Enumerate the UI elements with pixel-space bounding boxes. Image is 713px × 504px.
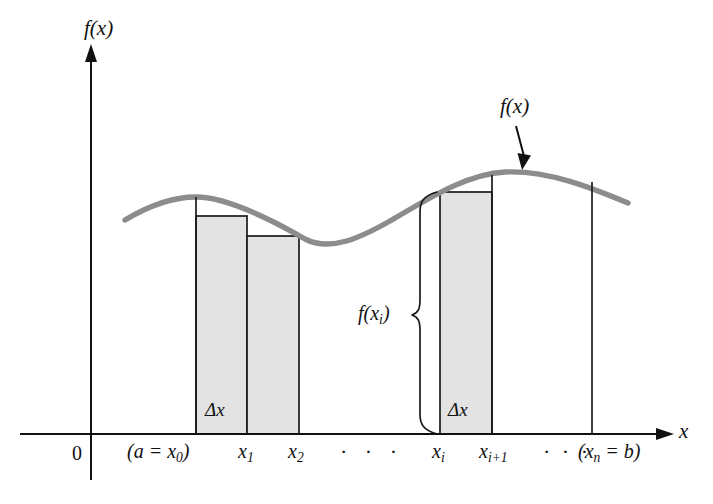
tick-subscript: i+1 xyxy=(488,450,508,465)
riemann-sum-figure: f(x) x 0 f(x) f(xi) Δx Δx (a = x0)x1x2· … xyxy=(0,0,713,504)
x-tick-label-xn-b: (xn = b) xyxy=(578,441,641,464)
tick-text: · · · xyxy=(340,439,403,464)
rectangle-2 xyxy=(247,236,299,434)
x-axis-label: x xyxy=(679,421,688,442)
tick-subscript: 1 xyxy=(247,450,254,465)
tick-text: x xyxy=(288,440,297,462)
x-tick-label-xi: xi xyxy=(432,441,445,464)
origin-label: 0 xyxy=(72,443,82,463)
rectangle-i xyxy=(440,192,492,434)
curve-label-arrow xyxy=(516,126,531,170)
x-tick-label-x2: x2 xyxy=(288,441,304,464)
x-tick-label-x1: x1 xyxy=(238,441,254,464)
delta-x-label-left: Δx xyxy=(205,400,225,419)
tick-subscript: 2 xyxy=(297,450,304,465)
x-tick-label-a-x0: (a = x0) xyxy=(127,441,190,464)
tick-text: x xyxy=(432,440,441,462)
x-tick-label-dots-mid: · · · xyxy=(340,441,403,463)
curve-label: f(x) xyxy=(500,96,529,117)
height-label-prefix: f(x xyxy=(358,302,379,324)
curve-arrow-head xyxy=(518,153,532,170)
tick-text: (x xyxy=(578,440,594,462)
figure-canvas xyxy=(0,0,713,504)
height-label-suffix: ) xyxy=(383,302,390,324)
x-tick-label-xi-plus-1: xi+1 xyxy=(479,441,508,464)
tick-text-suffix: = b) xyxy=(600,440,640,462)
tick-text: x xyxy=(479,440,488,462)
y-axis-label: f(x) xyxy=(84,18,113,39)
height-brace xyxy=(412,192,437,434)
riemann-rectangles xyxy=(196,192,492,434)
height-label: f(xi) xyxy=(358,303,390,326)
delta-x-label-right: Δx xyxy=(448,400,468,419)
tick-subscript: 0 xyxy=(176,450,183,465)
tick-text: (a = x xyxy=(127,440,176,462)
x-axis-arrowhead xyxy=(656,428,674,440)
axes xyxy=(20,44,674,480)
tick-text: x xyxy=(238,440,247,462)
tick-text-suffix: ) xyxy=(183,440,190,462)
y-axis-arrowhead xyxy=(85,44,97,62)
tick-subscript: i xyxy=(441,450,445,465)
